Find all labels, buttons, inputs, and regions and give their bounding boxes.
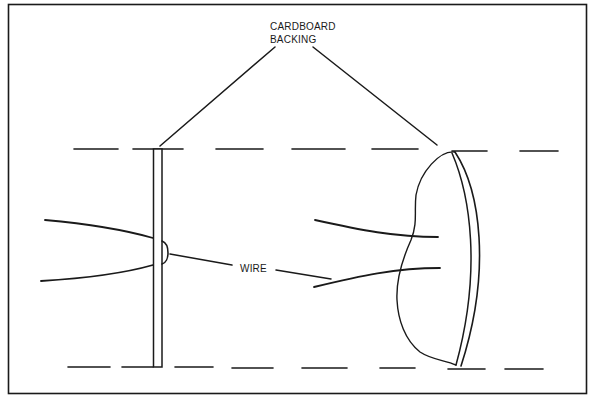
backing-leader-left — [160, 47, 275, 146]
wire-label: WIRE — [240, 263, 267, 274]
backing-leader-right — [313, 47, 437, 145]
bottom-dashed-line — [68, 367, 543, 369]
figure-frame — [9, 5, 587, 394]
top-dashed-line — [74, 149, 558, 151]
warped-cardboard-backing-front — [452, 153, 471, 365]
backing-label-line1: CARDBOARD — [270, 21, 336, 32]
warped-cardboard-backing-back — [455, 152, 480, 366]
warped-backing-outline — [397, 152, 456, 365]
left-lower-wire — [41, 265, 153, 281]
diagram: CARDBOARD BACKING WIRE — [0, 0, 594, 403]
left-upper-wire — [45, 220, 153, 238]
wire-leader-left — [170, 254, 232, 265]
right-lower-wire — [314, 268, 440, 287]
wire-loop — [162, 241, 168, 264]
backing-label-line2: BACKING — [270, 34, 316, 45]
flat-cardboard-backing — [154, 149, 163, 367]
wire-leader-right — [276, 270, 331, 279]
right-upper-wire — [315, 220, 438, 237]
